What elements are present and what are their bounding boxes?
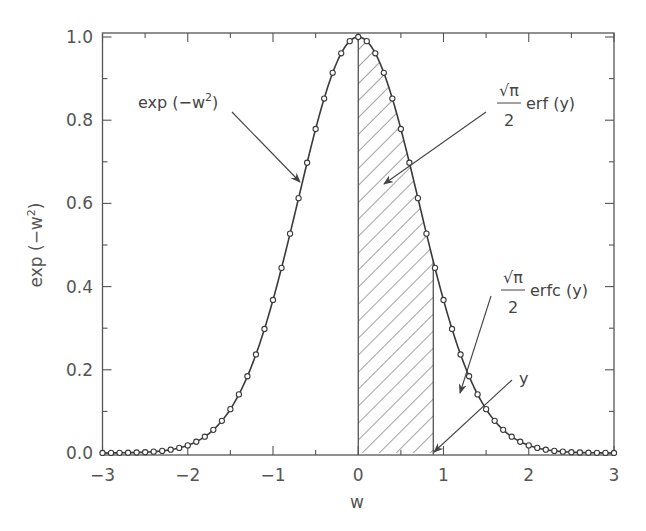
svg-text:exp (−w2): exp (−w2) (138, 91, 218, 112)
data-point (253, 352, 258, 357)
x-tick-label: −3 (90, 465, 115, 485)
erf-text: erf (y) (526, 94, 575, 113)
y-axis-label-main: exp (−w (26, 216, 46, 287)
exp-label-main: exp (−w (138, 93, 205, 112)
data-point (134, 450, 139, 455)
data-point (305, 160, 310, 165)
data-point (475, 392, 480, 397)
data-point (373, 51, 378, 56)
y-tick-label: 0.2 (66, 360, 93, 380)
data-point (484, 407, 489, 412)
data-point (177, 445, 182, 450)
exp-label-close: ) (212, 93, 218, 112)
y-tick-label: 0.8 (66, 110, 93, 130)
y-arrow (434, 380, 512, 452)
data-point (526, 443, 531, 448)
data-point (151, 449, 156, 454)
data-point (279, 265, 284, 270)
x-axis-label: w (350, 492, 364, 512)
data-point (441, 297, 446, 302)
data-point (347, 39, 352, 44)
data-point (125, 450, 130, 455)
svg-text:exp (−w2): exp (−w2) (25, 203, 46, 288)
data-point (108, 450, 113, 455)
data-point (603, 450, 608, 455)
y-tick-label: 0.0 (66, 443, 93, 463)
data-point (270, 297, 275, 302)
annotation-exp: exp (−w2) (138, 91, 300, 182)
data-point (432, 265, 437, 270)
data-point (202, 434, 207, 439)
chart-svg: −3−2−101230.00.20.40.60.81.0 w exp (−w2)… (0, 0, 646, 531)
data-point (543, 447, 548, 452)
data-point (415, 196, 420, 201)
exp-arrow (232, 112, 300, 182)
data-point (287, 231, 292, 236)
data-point (611, 450, 616, 455)
data-point (160, 448, 165, 453)
data-point (262, 326, 267, 331)
data-point (236, 392, 241, 397)
y-tick-label: 0.4 (66, 277, 93, 297)
x-tick-label: 0 (353, 465, 364, 485)
data-point (168, 447, 173, 452)
erfc-text: erfc (y) (530, 281, 588, 300)
data-point (466, 374, 471, 379)
data-point (449, 326, 454, 331)
x-tick-label: 1 (438, 465, 449, 485)
y-axis-label-sup: 2 (25, 209, 38, 216)
y-tick-label: 1.0 (66, 27, 93, 47)
annotation-erf: √π 2 erf (y) (384, 81, 575, 184)
data-point (330, 70, 335, 75)
data-point (381, 70, 386, 75)
data-point (219, 418, 224, 423)
data-point (535, 445, 540, 450)
data-point (228, 407, 233, 412)
data-point (552, 448, 557, 453)
data-point (313, 126, 318, 131)
data-point (518, 439, 523, 444)
y-axis-label-close: ) (26, 203, 46, 210)
data-point (364, 39, 369, 44)
data-point (390, 96, 395, 101)
y-tick-label: 0.6 (66, 193, 93, 213)
data-point (356, 34, 361, 39)
data-point (245, 374, 250, 379)
data-point (458, 352, 463, 357)
data-point (594, 450, 599, 455)
data-point (398, 126, 403, 131)
x-tick-label: −1 (260, 465, 285, 485)
data-point (560, 449, 565, 454)
data-point (117, 450, 122, 455)
exp-label-sup: 2 (205, 91, 212, 104)
data-point (569, 450, 574, 455)
data-point (509, 434, 514, 439)
y-text: y (519, 369, 528, 388)
erfc-two: 2 (508, 298, 518, 317)
data-point (296, 196, 301, 201)
data-point (339, 51, 344, 56)
x-tick-label: −2 (175, 465, 200, 485)
x-tick-label: 2 (523, 465, 534, 485)
y-axis-label: exp (−w2) (25, 203, 46, 288)
erf-sqrt-pi: √π (499, 81, 519, 100)
data-point (143, 450, 148, 455)
data-point (586, 450, 591, 455)
data-point (211, 427, 216, 432)
annotation-y: y (434, 369, 528, 452)
data-point (424, 231, 429, 236)
data-point (194, 439, 199, 444)
erf-two: 2 (504, 111, 514, 130)
erfc-arrow (460, 296, 491, 393)
data-point (501, 427, 506, 432)
data-point (100, 450, 105, 455)
x-tick-label: 3 (609, 465, 620, 485)
erfc-sqrt-pi: √π (503, 268, 523, 287)
data-point (577, 450, 582, 455)
data-point (185, 443, 190, 448)
data-point (322, 96, 327, 101)
erf-hatched-area (358, 37, 433, 453)
data-point (492, 418, 497, 423)
